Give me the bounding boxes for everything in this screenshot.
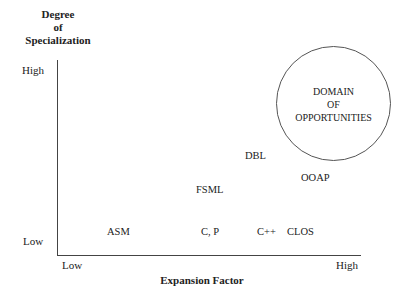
x-axis-line xyxy=(57,255,361,256)
y-axis-title-line-1: Degree xyxy=(0,8,116,21)
circle-line-3: OPPORTUNITIES xyxy=(276,111,391,124)
circle-line-2: OF xyxy=(276,98,391,111)
x-axis-high-label: High xyxy=(336,259,358,271)
point-cpp: C++ xyxy=(257,226,276,237)
point-ooap: OOAP xyxy=(301,172,330,183)
x-axis-title: Expansion Factor xyxy=(0,274,404,286)
point-c-p: C, P xyxy=(201,226,219,237)
point-asm: ASM xyxy=(107,226,130,237)
x-axis-low-label: Low xyxy=(62,259,82,271)
domain-of-opportunities-label: DOMAIN OF OPPORTUNITIES xyxy=(276,85,391,124)
point-clos: CLOS xyxy=(287,226,314,237)
point-dbl: DBL xyxy=(245,150,266,161)
y-axis-title: Degree of Specialization xyxy=(0,8,116,47)
y-axis-line xyxy=(57,60,58,256)
y-axis-title-line-2: of xyxy=(0,21,116,34)
circle-line-1: DOMAIN xyxy=(276,85,391,98)
y-axis-high-label: High xyxy=(22,64,44,76)
y-axis-low-label: Low xyxy=(23,235,43,247)
y-axis-title-line-3: Specialization xyxy=(0,34,116,47)
point-fsml: FSML xyxy=(196,184,223,195)
